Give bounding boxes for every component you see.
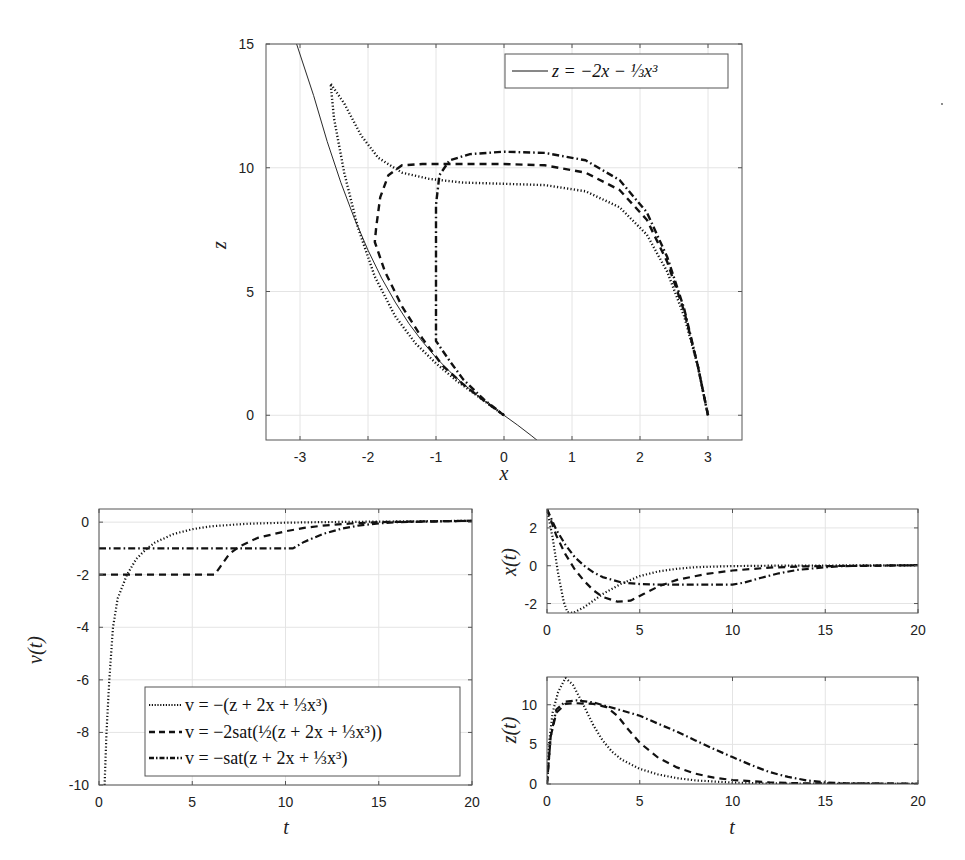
y-tick-label: 0 [81, 514, 89, 530]
x-tick-label: 15 [371, 794, 387, 810]
x-tick-label: -3 [294, 449, 307, 465]
y-tick-label: 0 [529, 558, 537, 574]
y-tick-label: -4 [77, 619, 90, 635]
phase-y-axis-label: z [208, 241, 230, 250]
stray-dot [941, 103, 943, 105]
y-tick-label: 10 [238, 160, 254, 176]
x-tick-label: 0 [95, 794, 103, 810]
phase-portrait-axes: -3-2-10123051015 [238, 36, 742, 465]
x-tick-label: 10 [725, 622, 741, 638]
x-tick-label: 20 [910, 793, 926, 809]
x-tick-label: 0 [543, 793, 551, 809]
x-tick-label: 2 [636, 449, 644, 465]
figure-canvas: -3-2-10123051015 05101520-10-8-6-4-20 05… [0, 0, 965, 860]
y-tick-label: 2 [529, 520, 537, 536]
x-plot-y-axis-label: x(t) [498, 548, 521, 577]
x-tick-label: 1 [568, 449, 576, 465]
x-tick-label: 5 [636, 793, 644, 809]
x-tick-label: 3 [704, 449, 712, 465]
y-tick-label: -2 [525, 596, 538, 612]
x-tick-label: 15 [817, 622, 833, 638]
phase-x-axis-label: x [499, 462, 509, 484]
phase-legend-label: z = −2x − ⅓x³ [551, 61, 658, 81]
x-tick-label: 5 [188, 794, 196, 810]
y-tick-label: -6 [77, 672, 90, 688]
y-tick-label: 0 [529, 776, 537, 792]
x-tick-label: 5 [636, 622, 644, 638]
x-tick-label: 0 [543, 622, 551, 638]
v-plot-x-axis-label: t [283, 816, 289, 838]
z-time-axes: 051015200510 [521, 677, 926, 809]
figure: -3-2-10123051015 05101520-10-8-6-4-20 05… [0, 0, 965, 860]
y-tick-label: -2 [77, 567, 90, 583]
y-tick-label: 0 [246, 407, 254, 423]
z-plot-x-axis-label: t [729, 816, 735, 838]
x-tick-label: 20 [910, 622, 926, 638]
x-time-axes: 05101520-202 [525, 509, 926, 638]
legend-label-full-control: v = −(z + 2x + ⅓x³) [185, 695, 327, 716]
legend-label-sat-control: v = −sat(z + 2x + ⅓x³) [185, 748, 347, 769]
y-tick-label: 5 [246, 284, 254, 300]
phase-legend: z = −2x − ⅓x³ [505, 54, 728, 88]
v-legend: v = −(z + 2x + ⅓x³) v = −2sat(½(z + 2x +… [145, 687, 460, 776]
y-tick-label: -8 [77, 724, 90, 740]
x-tick-label: 10 [278, 794, 294, 810]
x-tick-label: -1 [430, 449, 443, 465]
legend-label-2sat-control: v = −2sat(½(z + 2x + ⅓x³)) [185, 722, 382, 743]
x-tick-label: 15 [817, 793, 833, 809]
y-tick-label: 10 [521, 697, 537, 713]
x-tick-label: 10 [725, 793, 741, 809]
x-tick-label: -2 [362, 449, 375, 465]
y-tick-label: 15 [238, 36, 254, 52]
v-plot-y-axis-label: v(t) [24, 636, 47, 664]
x-tick-label: 20 [464, 794, 480, 810]
y-tick-label: 5 [529, 736, 537, 752]
y-tick-label: -10 [69, 777, 89, 793]
z-plot-y-axis-label: z(t) [498, 716, 521, 744]
